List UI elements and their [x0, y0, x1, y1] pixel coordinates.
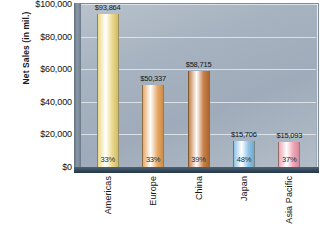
category-slot: Europe: [130, 176, 175, 226]
category-slot: China: [176, 176, 221, 226]
y-axis-tick-label: $20,000: [14, 129, 72, 139]
bar-percent-label: 37%: [279, 155, 299, 164]
category-slot: Americas: [85, 176, 130, 226]
bar-value-label: $50,337: [140, 74, 166, 83]
bar-slot: $58,71539%: [176, 4, 221, 167]
net-sales-bar-chart: Net Sales (in mil.) $0$20,000$40,000$60,…: [0, 0, 322, 226]
plot-area: $93,86433%$50,33733%$58,71539%$15,70648%…: [81, 4, 316, 167]
bar[interactable]: $50,33733%: [142, 85, 164, 167]
bar-slot: $15,70648%: [221, 4, 266, 167]
bar[interactable]: $93,86433%: [97, 14, 119, 167]
bar-percent-label: 33%: [98, 155, 118, 164]
category-slot: Asia Pacific: [267, 176, 312, 226]
bar-value-label: $15,093: [276, 131, 302, 140]
x-axis-category-label: Asia Pacific: [284, 176, 294, 224]
bars-layer: $93,86433%$50,33733%$58,71539%$15,70648%…: [81, 4, 316, 167]
x-axis-category-label: Americas: [103, 176, 113, 214]
bar[interactable]: $15,09337%: [278, 142, 300, 167]
y-axis-tick-label: $100,000: [14, 0, 72, 9]
bar-percent-label: 33%: [143, 155, 163, 164]
bar-value-label: $15,706: [231, 130, 257, 139]
bar[interactable]: $15,70648%: [233, 141, 255, 167]
bar-value-label: $58,715: [186, 60, 212, 69]
bar-slot: $15,09337%: [267, 4, 312, 167]
y-axis-tick-labels: $0$20,000$40,000$60,000$80,000$100,000: [14, 0, 72, 166]
x-axis-category-label: China: [194, 176, 204, 200]
bar-value-label: $93,864: [95, 4, 121, 12]
y-axis-tick-label: $0: [14, 162, 72, 172]
bar[interactable]: $58,71539%: [188, 71, 210, 167]
bar-percent-label: 48%: [234, 155, 254, 164]
plot-region: $93,86433%$50,33733%$58,71539%$15,70648%…: [74, 3, 319, 173]
x-axis-category-labels: AmericasEuropeChinaJapanAsia Pacific: [81, 176, 316, 226]
x-axis-wall: [74, 167, 319, 173]
bar-slot: $50,33733%: [130, 4, 175, 167]
x-axis-category-label: Japan: [239, 176, 249, 201]
y-axis-tick-label: $40,000: [14, 97, 72, 107]
y-axis-wall: [74, 3, 81, 173]
category-slot: Japan: [221, 176, 266, 226]
bar-percent-label: 39%: [189, 155, 209, 164]
y-axis-tick-label: $80,000: [14, 32, 72, 42]
bar-slot: $93,86433%: [85, 4, 130, 167]
y-axis-tick-label: $60,000: [14, 64, 72, 74]
x-axis-category-label: Europe: [148, 176, 158, 206]
